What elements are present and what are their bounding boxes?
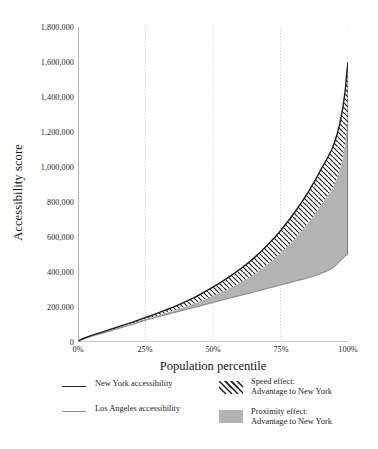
y-tick-1000000: 1,000,000: [24, 163, 74, 172]
legend-item-new-york: New York accessibility: [62, 378, 212, 397]
legend-label-speed-effect-line1: Speed effect:: [251, 377, 332, 387]
accessibility-score-chart: Accessibility score 1,800,000 1,600,000 …: [0, 0, 378, 449]
x-axis-title: Population percentile: [78, 359, 348, 374]
legend-column-lines: New York accessibility Los Angeles acces…: [62, 378, 212, 422]
x-tick-100: 100%: [338, 345, 357, 354]
x-tick-25: 25%: [137, 345, 152, 354]
y-tick-400000: 400,000: [24, 268, 74, 277]
legend-line-swatch-los-angeles: [62, 411, 86, 412]
legend-line-swatch-new-york: [62, 386, 86, 387]
x-tick-50: 50%: [205, 345, 220, 354]
y-tick-1400000: 1,400,000: [24, 93, 74, 102]
legend-label-new-york: New York accessibility: [95, 379, 172, 388]
y-tick-600000: 600,000: [24, 233, 74, 242]
legend-label-speed-effect: Speed effect: Advantage to New York: [251, 377, 332, 397]
legend-label-proximity-effect-line2: Advantage to New York: [251, 417, 332, 427]
y-tick-200000: 200,000: [24, 303, 74, 312]
legend-label-speed-effect-line2: Advantage to New York: [251, 387, 332, 397]
plot-area: [78, 27, 348, 342]
x-tick-0: 0%: [72, 345, 83, 354]
y-tick-800000: 800,000: [24, 198, 74, 207]
legend-item-proximity-effect: Proximity effect: Advantage to New York: [218, 408, 378, 437]
y-tick-1200000: 1,200,000: [24, 128, 74, 137]
legend-label-los-angeles: Los Angeles accessibility: [95, 404, 180, 413]
legend-label-proximity-effect-line1: Proximity effect:: [251, 407, 332, 417]
legend-item-speed-effect: Speed effect: Advantage to New York: [218, 378, 378, 407]
x-tick-75: 75%: [273, 345, 288, 354]
chart-legend: New York accessibility Los Angeles acces…: [0, 378, 378, 438]
plot-svg: [78, 27, 348, 342]
y-tick-1800000: 1,800,000: [24, 23, 74, 32]
x-axis-tick-labels: 0% 25% 50% 75% 100%: [0, 345, 378, 359]
y-tick-1600000: 1,600,000: [24, 58, 74, 67]
legend-column-effects: Speed effect: Advantage to New York Prox…: [218, 378, 378, 437]
legend-label-proximity-effect: Proximity effect: Advantage to New York: [251, 407, 332, 427]
solid-fill-swatch-icon: [219, 410, 243, 423]
legend-item-los-angeles: Los Angeles accessibility: [62, 403, 212, 422]
hatch-swatch-icon: [219, 380, 243, 393]
